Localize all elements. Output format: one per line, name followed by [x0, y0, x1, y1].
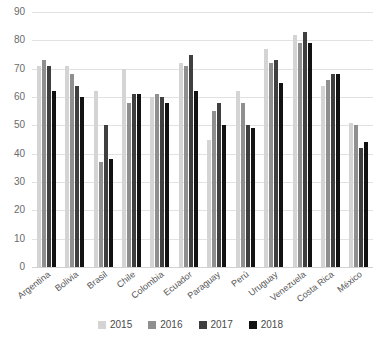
bar-2017-venezuela — [303, 32, 307, 267]
chart-legend: 2015201620172018 — [0, 320, 381, 330]
bar-group-ecuador — [174, 12, 202, 267]
bar-group-costa-rica — [316, 12, 344, 267]
legend-swatch-icon-2016 — [148, 321, 156, 329]
bar-group-colombia — [146, 12, 174, 267]
bar-2016-costa-rica — [326, 80, 330, 267]
bar-2017-paraguay — [217, 103, 221, 267]
bar-2018-argentina — [52, 91, 56, 267]
bar-2016-bolivia — [70, 74, 74, 267]
y-tick-label-10: 10 — [14, 234, 25, 244]
y-tick-label-80: 80 — [14, 35, 25, 45]
bar-2018-brasil — [109, 159, 113, 267]
x-axis-tick-labels: ArgentinaBoliviaBrasilChileColombiaEcuad… — [32, 268, 373, 316]
bar-2015-chile — [122, 69, 126, 267]
bar-2017-ecuador — [189, 55, 193, 268]
bar-group-perú — [231, 12, 259, 267]
bar-2017-perú — [246, 125, 250, 267]
x-tick-label-argentina: Argentina — [16, 270, 52, 301]
bar-2016-chile — [127, 103, 131, 267]
bar-2018-chile — [137, 94, 141, 267]
bar-2015-perú — [236, 91, 240, 267]
bar-2017-costa-rica — [331, 74, 335, 267]
y-tick-label-70: 70 — [14, 64, 25, 74]
bar-2016-argentina — [42, 60, 46, 267]
bar-2018-costa-rica — [336, 74, 340, 267]
legend-item-2017[interactable]: 2017 — [199, 320, 233, 330]
bar-2018-ecuador — [194, 91, 198, 267]
y-tick-label-30: 30 — [14, 177, 25, 187]
x-tick-label-chile: Chile — [115, 270, 137, 290]
bar-2016-brasil — [99, 162, 103, 267]
legend-swatch-icon-2018 — [249, 321, 257, 329]
legend-item-2016[interactable]: 2016 — [148, 320, 182, 330]
bar-2016-méxico — [354, 125, 358, 267]
bar-2016-colombia — [155, 94, 159, 267]
y-tick-label-20: 20 — [14, 205, 25, 215]
bar-2018-uruguay — [279, 83, 283, 267]
bar-2017-colombia — [160, 97, 164, 267]
legend-label-2016: 2016 — [160, 320, 182, 330]
bar-2018-colombia — [165, 103, 169, 267]
bar-2018-méxico — [364, 142, 368, 267]
bar-chart: 0102030405060708090 ArgentinaBoliviaBras… — [0, 0, 381, 343]
bar-2018-bolivia — [80, 97, 84, 267]
bar-group-brasil — [89, 12, 117, 267]
bar-2015-ecuador — [179, 63, 183, 267]
legend-item-2018[interactable]: 2018 — [249, 320, 283, 330]
x-tick-label-perú: Perú — [230, 270, 251, 289]
bar-2017-bolivia — [75, 86, 79, 267]
y-tick-label-90: 90 — [14, 7, 25, 17]
bar-group-argentina — [32, 12, 60, 267]
bar-2015-brasil — [94, 91, 98, 267]
bar-group-venezuela — [288, 12, 316, 267]
legend-label-2018: 2018 — [261, 320, 283, 330]
x-tick-label-brasil: Brasil — [85, 270, 108, 291]
bar-2018-paraguay — [222, 125, 226, 267]
legend-label-2017: 2017 — [211, 320, 233, 330]
bar-2017-méxico — [359, 148, 363, 267]
bar-2018-venezuela — [308, 43, 312, 267]
bar-2015-paraguay — [207, 140, 211, 268]
legend-label-2015: 2015 — [110, 320, 132, 330]
bar-group-méxico — [345, 12, 373, 267]
y-tick-label-50: 50 — [14, 120, 25, 130]
y-axis-tick-labels: 0102030405060708090 — [0, 12, 30, 267]
bar-2017-uruguay — [274, 60, 278, 267]
y-tick-label-40: 40 — [14, 149, 25, 159]
x-tick-label-méxico: México — [336, 270, 364, 295]
bar-2015-argentina — [37, 66, 41, 267]
bar-2017-brasil — [104, 125, 108, 267]
bar-2015-bolivia — [65, 66, 69, 267]
plot-area — [32, 12, 373, 267]
bar-2016-paraguay — [212, 111, 216, 267]
bar-2016-perú — [241, 103, 245, 267]
bar-2015-colombia — [150, 97, 154, 267]
bar-group-bolivia — [60, 12, 88, 267]
bar-group-uruguay — [259, 12, 287, 267]
bar-2018-perú — [251, 128, 255, 267]
bar-2015-costa-rica — [321, 86, 325, 267]
legend-swatch-icon-2015 — [98, 321, 106, 329]
x-tick-label-bolivia: Bolivia — [54, 270, 80, 293]
bar-2016-venezuela — [298, 43, 302, 267]
bar-2015-méxico — [349, 123, 353, 268]
bar-2017-argentina — [47, 66, 51, 267]
bar-groups — [32, 12, 373, 267]
bar-2015-venezuela — [293, 35, 297, 267]
legend-item-2015[interactable]: 2015 — [98, 320, 132, 330]
bar-2016-uruguay — [269, 63, 273, 267]
y-tick-label-0: 0 — [19, 262, 25, 272]
bar-group-chile — [117, 12, 145, 267]
bar-2016-ecuador — [184, 66, 188, 267]
y-tick-label-60: 60 — [14, 92, 25, 102]
bar-2015-uruguay — [264, 49, 268, 267]
bar-2017-chile — [132, 94, 136, 267]
bar-group-paraguay — [203, 12, 231, 267]
legend-swatch-icon-2017 — [199, 321, 207, 329]
